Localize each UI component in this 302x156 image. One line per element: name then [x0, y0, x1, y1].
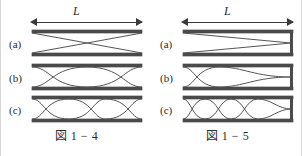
dimension-line: [183, 22, 293, 23]
dimension-arrow-right-icon: [136, 18, 143, 26]
pipe-row-b: [183, 64, 293, 90]
row-label-c: (c): [9, 104, 31, 116]
row-label-b: (b): [9, 72, 31, 84]
figure-caption: 図 1 − 4: [1, 129, 152, 144]
standing-wave-b: [183, 64, 293, 90]
pipe-row-a: [183, 30, 293, 56]
row-label-b: (b): [160, 72, 182, 84]
standing-wave-c: [183, 96, 293, 122]
standing-wave-c: [32, 96, 142, 122]
dimension-label: L: [224, 4, 231, 18]
pipe-row-c: [32, 96, 142, 122]
row-label-a: (a): [160, 38, 182, 50]
figure-open-open-pipe: L (a) (b) (c): [1, 0, 152, 156]
dimension-label: L: [73, 4, 80, 18]
pipe-row-c: [183, 96, 293, 122]
pipe-row-b: [32, 64, 142, 90]
figure-open-closed-pipe: L (a) (b) (c): [152, 0, 302, 156]
figure-page: L (a) (b) (c): [0, 0, 302, 156]
figure-caption: 図 1 − 5: [152, 129, 302, 144]
dimension-line: [32, 22, 142, 23]
pipe-row-a: [32, 30, 142, 56]
dimension-arrow-right-icon: [287, 18, 294, 26]
standing-wave-a: [183, 30, 293, 56]
row-label-a: (a): [9, 38, 31, 50]
standing-wave-a: [32, 30, 142, 56]
row-label-c: (c): [160, 104, 182, 116]
standing-wave-b: [32, 64, 142, 90]
